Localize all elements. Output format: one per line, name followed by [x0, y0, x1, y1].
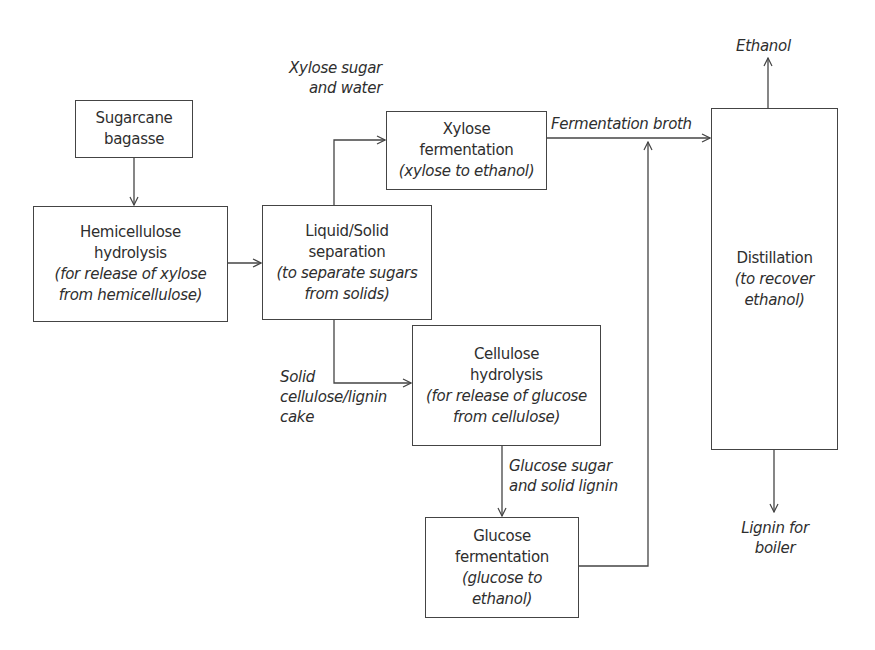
node-title: separation — [309, 242, 386, 263]
label-lignin-output: Lignin for boiler — [733, 518, 817, 558]
node-subtitle: ethanol) — [472, 589, 532, 610]
node-sugarcane-bagasse: Sugarcane bagasse — [75, 100, 193, 158]
node-subtitle: (to separate sugars — [277, 263, 418, 284]
node-title: Hemicellulose — [80, 222, 181, 243]
node-title: fermentation — [455, 547, 549, 568]
node-glucose-fermentation: Glucose fermentation (glucose to ethanol… — [425, 517, 579, 618]
label-fermentation-broth: Fermentation broth — [551, 114, 692, 134]
node-subtitle: ethanol) — [744, 290, 804, 311]
arrow-separation-to-xylose — [334, 140, 385, 205]
node-subtitle: from cellulose) — [453, 407, 560, 428]
node-title: hydrolysis — [470, 365, 543, 386]
label-solid-stream: Solid cellulose/lignin cake — [280, 367, 387, 427]
node-title: hydrolysis — [94, 243, 167, 264]
node-subtitle: (xylose to ethanol) — [399, 161, 534, 182]
node-xylose-fermentation: Xylose fermentation (xylose to ethanol) — [386, 111, 547, 190]
node-title: Xylose — [443, 119, 491, 140]
node-title: fermentation — [420, 140, 514, 161]
node-title: Liquid/Solid — [305, 221, 388, 242]
node-subtitle: from solids) — [305, 284, 390, 305]
label-ethanol-output: Ethanol — [736, 36, 791, 56]
node-distillation: Distillation (to recover ethanol) — [711, 108, 838, 450]
label-glucose-stream: Glucose sugar and solid lignin — [509, 456, 618, 496]
node-subtitle: (to recover — [735, 269, 814, 290]
node-subtitle: (glucose to — [462, 568, 542, 589]
node-subtitle: (for release of glucose — [426, 386, 587, 407]
node-hemicellulose-hydrolysis: Hemicellulose hydrolysis (for release of… — [33, 206, 228, 322]
node-title: Sugarcane — [95, 108, 172, 129]
node-title: Cellulose — [474, 344, 539, 365]
node-subtitle: from hemicellulose) — [59, 285, 202, 306]
node-title: Distillation — [736, 248, 812, 269]
node-cellulose-hydrolysis: Cellulose hydrolysis (for release of glu… — [412, 325, 601, 446]
node-subtitle: (for release of xylose — [55, 264, 207, 285]
node-liquid-solid-separation: Liquid/Solid separation (to separate sug… — [262, 205, 432, 320]
label-xylose-stream: Xylose sugar and water — [276, 58, 382, 98]
node-title: Glucose — [473, 526, 531, 547]
node-title: bagasse — [104, 129, 164, 150]
